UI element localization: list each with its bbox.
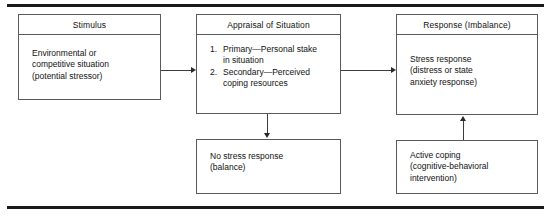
no-stress-line-2: (balance) <box>210 162 340 173</box>
top-rule <box>7 4 544 7</box>
active-coping-line-3: intervention) <box>410 173 537 184</box>
stimulus-line-3: (potential stressor) <box>32 71 160 82</box>
connector-appraisal-to-response-arrowhead-icon <box>391 67 396 73</box>
stimulus-box-body: Environmental or competitive situation (… <box>19 35 160 82</box>
appraisal-item-1-number: 1. <box>210 44 217 55</box>
active-coping-line-2: (cognitive-behavioral <box>410 161 537 172</box>
connector-appraisal-to-no-stress-arrowhead-icon <box>264 133 270 138</box>
active-coping-box: Active coping (cognitive-behavioral inte… <box>396 140 538 194</box>
connector-stimulus-to-appraisal-arrowhead-icon <box>191 67 196 73</box>
appraisal-item-2-line-1: Secondary—Perceived <box>223 67 310 77</box>
no-stress-line-1: No stress response <box>210 151 340 162</box>
appraisal-list: 1. Primary—Personal stake in situation 2… <box>210 44 340 90</box>
appraisal-item-2-line-2: coping resources <box>223 78 288 88</box>
connector-active-coping-to-response-arrowhead-icon <box>460 116 466 121</box>
connector-stimulus-to-appraisal-line <box>161 70 191 71</box>
appraisal-box-body: 1. Primary—Personal stake in situation 2… <box>197 35 340 90</box>
appraisal-list-item: 1. Primary—Personal stake in situation <box>210 44 340 67</box>
response-line-1: Stress response <box>410 54 537 65</box>
bottom-rule <box>7 206 544 209</box>
active-coping-line-1: Active coping <box>410 150 537 161</box>
stimulus-line-2: competitive situation <box>32 59 160 70</box>
stimulus-box-header: Stimulus <box>19 15 160 35</box>
response-line-3: anxiety response) <box>410 77 537 88</box>
stimulus-line-1: Environmental or <box>32 48 160 59</box>
appraisal-item-2-number: 2. <box>210 67 217 78</box>
connector-appraisal-to-no-stress-line <box>267 114 268 134</box>
response-box-header: Response (Imbalance) <box>397 15 537 35</box>
no-stress-response-box: No stress response (balance) <box>196 139 341 194</box>
response-box-body: Stress response (distress or state anxie… <box>397 35 537 88</box>
active-coping-body: Active coping (cognitive-behavioral inte… <box>397 141 537 184</box>
appraisal-item-1-line-2: in situation <box>223 55 264 65</box>
appraisal-box: Appraisal of Situation 1. Primary—Person… <box>196 14 341 114</box>
response-line-2: (distress or state <box>410 65 537 76</box>
stress-process-diagram: Stimulus Environmental or competitive si… <box>0 0 551 218</box>
stimulus-box: Stimulus Environmental or competitive si… <box>18 14 161 100</box>
no-stress-response-body: No stress response (balance) <box>197 140 340 174</box>
appraisal-item-1-line-1: Primary—Personal stake <box>223 44 317 54</box>
connector-active-coping-to-response-line <box>463 121 464 140</box>
connector-appraisal-to-response-line <box>341 70 391 71</box>
response-box: Response (Imbalance) Stress response (di… <box>396 14 538 115</box>
appraisal-box-header: Appraisal of Situation <box>197 15 340 35</box>
appraisal-list-item: 2. Secondary—Perceived coping resources <box>210 67 340 90</box>
